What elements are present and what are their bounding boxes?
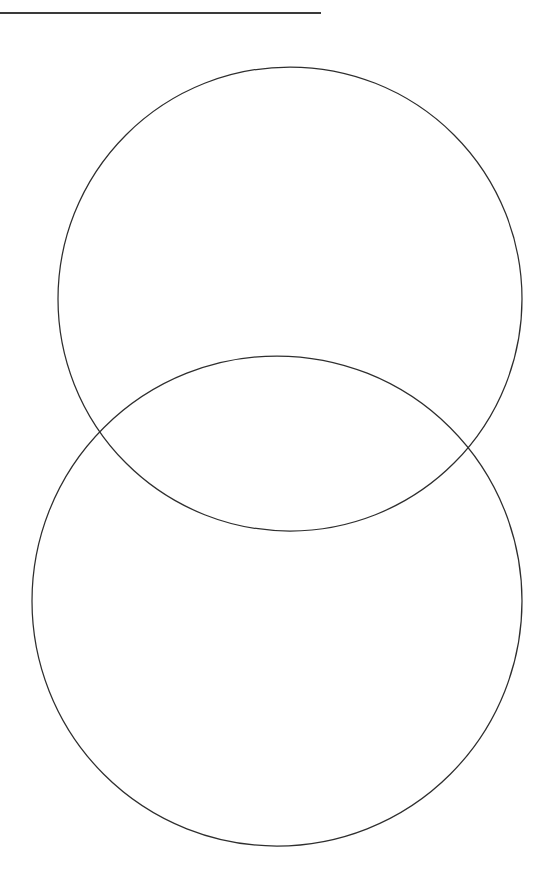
figure-page: Two Overlapping Circles Figure Hand-draw… (0, 0, 556, 882)
page-background (0, 0, 556, 882)
figure-canvas (0, 0, 556, 882)
